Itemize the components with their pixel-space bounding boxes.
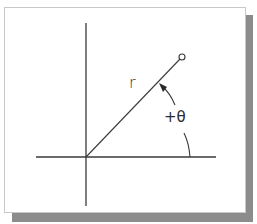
polar-coordinate-diagram bbox=[0, 0, 257, 224]
angle-arc-lower bbox=[184, 133, 190, 157]
radius-label: r bbox=[129, 75, 136, 91]
angle-arrowhead-icon bbox=[159, 83, 167, 92]
endpoint-circle-icon bbox=[179, 54, 185, 60]
angle-label: +θ bbox=[164, 110, 186, 125]
